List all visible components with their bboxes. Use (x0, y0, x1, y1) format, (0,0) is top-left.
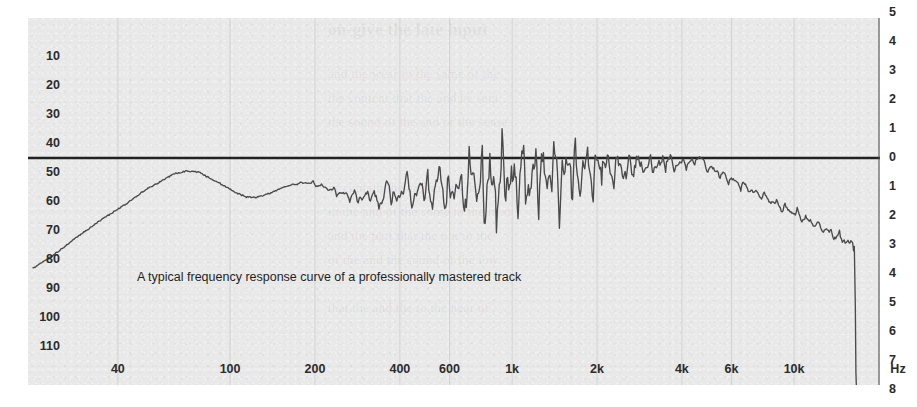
right-axis-tick-9: 4 (889, 266, 913, 280)
right-axis-tick-8: 3 (889, 237, 913, 251)
frequency-response-figure: on-give the late input and the wear to t… (0, 0, 917, 407)
right-axis-tick-7: 2 (889, 208, 913, 222)
left-axis-tick-40: 40 (28, 136, 60, 150)
x-axis-tick-600: 600 (430, 362, 470, 376)
left-axis-tick-20: 20 (28, 78, 60, 92)
x-axis-tick-40: 40 (98, 362, 138, 376)
x-axis-tick-4k: 4k (662, 362, 702, 376)
left-axis-tick-10: 10 (28, 49, 60, 63)
x-axis-tick-1k: 1k (492, 362, 532, 376)
right-axis-tick-4: 1 (889, 121, 913, 135)
x-axis-tick-2k: 2k (577, 362, 617, 376)
right-axis-tick-6: 1 (889, 179, 913, 193)
plot-area (28, 18, 880, 385)
right-axis-tick-2: 3 (889, 63, 913, 77)
right-axis-tick-5: 0 (889, 150, 913, 164)
x-axis-tick-100: 100 (210, 362, 250, 376)
x-axis-tick-400: 400 (380, 362, 420, 376)
right-axis-tick-10: 5 (889, 295, 913, 309)
right-axis-tick-11: 6 (889, 324, 913, 338)
chart-panel: on-give the late input and the wear to t… (28, 18, 880, 385)
right-axis-tick-1: 4 (889, 34, 913, 48)
x-axis-unit: Hz (884, 362, 912, 376)
left-axis-tick-100: 100 (28, 310, 60, 324)
left-axis-tick-110: 110 (28, 339, 60, 353)
left-axis-tick-80: 80 (28, 252, 60, 266)
left-axis-tick-70: 70 (28, 223, 60, 237)
right-axis-tick-3: 2 (889, 92, 913, 106)
left-axis-tick-30: 30 (28, 107, 60, 121)
x-axis-tick-200: 200 (295, 362, 335, 376)
response-curve (33, 129, 856, 385)
chart-caption: A typical frequency response curve of a … (137, 270, 521, 284)
right-axis-tick-13: 8 (889, 382, 913, 396)
x-axis-tick-10k: 10k (774, 362, 814, 376)
gridlines (118, 18, 794, 385)
left-axis-tick-50: 50 (28, 165, 60, 179)
x-axis-tick-6k: 6k (712, 362, 752, 376)
left-axis-tick-90: 90 (28, 281, 60, 295)
right-axis-tick-0: 5 (889, 5, 913, 19)
left-axis-tick-60: 60 (28, 194, 60, 208)
